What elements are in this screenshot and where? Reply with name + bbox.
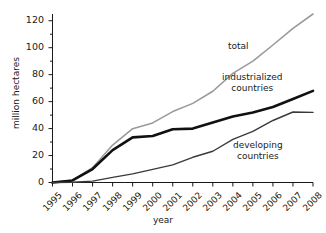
y-tick-label: 0 <box>10 176 44 187</box>
y-tick-label: 120 <box>10 14 44 25</box>
series-label-developing-line2: countries <box>233 151 283 162</box>
series-line-industrialized-countries <box>53 91 314 183</box>
series-label-industrialized-line2: countries <box>222 83 283 94</box>
series-label-total: total <box>228 41 249 52</box>
y-axis-title: million hectares <box>11 48 21 138</box>
series-label-industrialized-line1: industrialized <box>222 72 283 83</box>
y-tick-label: 20 <box>10 149 44 160</box>
x-axis-title: year <box>0 215 326 225</box>
line-chart: 020406080100120 199519961997199819992000… <box>0 0 326 233</box>
series-label-developing: developing countries <box>233 140 283 162</box>
series-label-developing-line1: developing <box>233 140 283 151</box>
series-label-industrialized: industrialized countries <box>222 72 283 94</box>
x-axis-ticks <box>53 183 314 187</box>
y-axis-ticks <box>49 21 53 183</box>
